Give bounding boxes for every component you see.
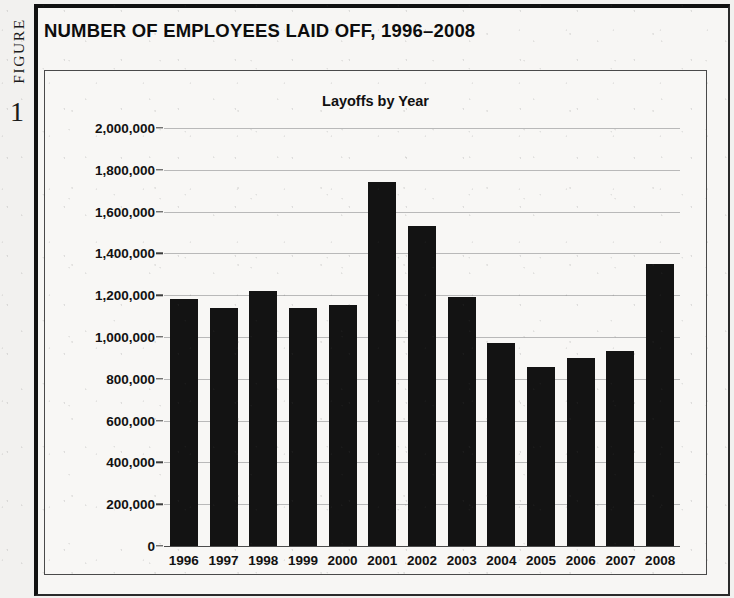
y-axis-tick bbox=[156, 127, 163, 128]
x-axis-label: 2008 bbox=[645, 553, 675, 568]
x-axis-label: 1997 bbox=[209, 553, 239, 568]
y-axis-tick bbox=[156, 545, 163, 546]
bar bbox=[527, 367, 555, 546]
x-axis-label: 2002 bbox=[407, 553, 437, 568]
chart-title: Layoffs by Year bbox=[45, 93, 706, 109]
y-axis-tick bbox=[156, 169, 163, 170]
x-axis-label: 2005 bbox=[526, 553, 556, 568]
bar bbox=[170, 299, 198, 546]
y-axis-tick bbox=[156, 503, 163, 504]
bar bbox=[210, 308, 238, 546]
y-axis-label: 1,000,000 bbox=[95, 330, 155, 345]
gridline bbox=[164, 546, 680, 547]
y-axis-label: 1,200,000 bbox=[95, 288, 155, 303]
bar bbox=[408, 226, 436, 546]
bar bbox=[646, 264, 674, 546]
y-axis-label: 1,400,000 bbox=[95, 246, 155, 261]
x-axis-label: 1998 bbox=[248, 553, 278, 568]
x-axis-label: 2003 bbox=[447, 553, 477, 568]
gridline bbox=[164, 170, 680, 171]
x-axis-label: 2004 bbox=[486, 553, 516, 568]
y-axis-tick bbox=[156, 462, 163, 463]
bar bbox=[289, 308, 317, 546]
x-axis-label: 2001 bbox=[367, 553, 397, 568]
bar bbox=[329, 305, 357, 546]
figure-label-number: 1 bbox=[4, 96, 30, 128]
bar bbox=[448, 297, 476, 546]
y-axis-label: 2,000,000 bbox=[95, 121, 155, 136]
y-axis-label: 600,000 bbox=[106, 413, 155, 428]
bar bbox=[567, 358, 595, 546]
y-axis-label: 400,000 bbox=[106, 455, 155, 470]
y-axis-label: 0 bbox=[147, 539, 155, 554]
bar bbox=[487, 343, 515, 546]
y-axis-tick bbox=[156, 336, 163, 337]
bar bbox=[368, 182, 396, 546]
y-axis-label: 200,000 bbox=[106, 497, 155, 512]
gridline bbox=[164, 128, 680, 129]
y-axis-tick bbox=[156, 253, 163, 254]
y-axis-tick bbox=[156, 420, 163, 421]
gridline bbox=[164, 212, 680, 213]
plot-area: 0200,000400,000600,000800,0001,000,0001,… bbox=[164, 128, 680, 546]
chart-frame: Layoffs by Year 0200,000400,000600,00080… bbox=[44, 70, 707, 575]
figure-spine: FIGURE 1 bbox=[0, 0, 34, 598]
x-axis-label: 1999 bbox=[288, 553, 318, 568]
x-axis-label: 1996 bbox=[169, 553, 199, 568]
x-axis-label: 2007 bbox=[605, 553, 635, 568]
y-axis-tick bbox=[156, 378, 163, 379]
x-axis-label: 2006 bbox=[566, 553, 596, 568]
y-axis-tick bbox=[156, 294, 163, 295]
y-axis-label: 800,000 bbox=[106, 371, 155, 386]
bar bbox=[606, 351, 634, 546]
figure-label-word: FIGURE bbox=[10, 6, 28, 96]
bar bbox=[249, 291, 277, 546]
y-axis-tick bbox=[156, 211, 163, 212]
x-axis-label: 2000 bbox=[328, 553, 358, 568]
y-axis-label: 1,600,000 bbox=[95, 204, 155, 219]
y-axis-label: 1,800,000 bbox=[95, 162, 155, 177]
figure-title: NUMBER OF EMPLOYEES LAID OFF, 1996–2008 bbox=[44, 20, 475, 42]
